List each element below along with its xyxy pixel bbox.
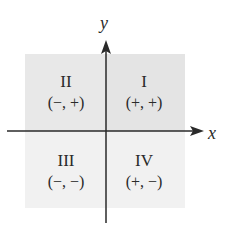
y-axis-label: y [100,13,108,34]
quadrant-iv-signs: (+, −) [104,174,184,190]
quadrant-iii-signs: (−, −) [26,174,106,190]
axes [0,0,230,234]
quadrant-iii-numeral: III [26,152,106,169]
x-axis-label: x [208,123,216,144]
quadrant-i-signs: (+, +) [104,95,184,111]
quadrant-i-numeral: I [104,73,184,90]
quadrant-iv-numeral: IV [104,152,184,169]
quadrant-ii-numeral: II [26,73,106,90]
quadrant-ii-signs: (−, +) [26,95,106,111]
